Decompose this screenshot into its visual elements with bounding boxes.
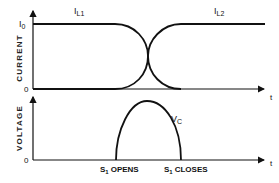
current-axis-label: CURRENT <box>15 34 24 82</box>
il1-label: IL1 <box>74 6 84 17</box>
vc-label: VC <box>171 114 182 125</box>
vc-curve <box>116 101 181 160</box>
voltage-plot: VOLTAGE 0 VC t S1OPENS S1CLOSES <box>15 97 273 175</box>
il2-label: IL2 <box>214 6 224 17</box>
current-plot: CURRENT I0 0 IL1 IL2 t <box>15 6 273 102</box>
s1-opens-label: S1OPENS <box>100 165 139 175</box>
current-t-label: t <box>270 93 273 102</box>
s1-closes-label: S1CLOSES <box>164 165 208 175</box>
voltage-axis-label: VOLTAGE <box>15 105 24 151</box>
il2-curve <box>33 24 265 89</box>
switching-waveform-diagram: CURRENT I0 0 IL1 IL2 t VOLTAGE 0 VC t S1… <box>0 0 279 183</box>
current-zero-tick: 0 <box>24 85 29 94</box>
voltage-zero-tick: 0 <box>24 156 29 165</box>
i0-tick-label: I0 <box>19 19 26 30</box>
voltage-t-label: t <box>270 159 273 168</box>
